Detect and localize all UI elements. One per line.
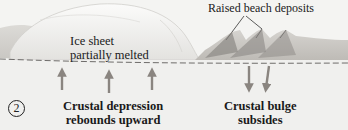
crustal-bulge-line2: subsides <box>224 113 297 127</box>
beach-leader-lines <box>232 16 262 32</box>
crustal-bulge-label: Crustal bulge subsides <box>224 99 297 127</box>
raised-beach-label: Raised beach deposits <box>208 2 314 15</box>
crustal-depression-line2: rebounds upward <box>63 113 163 127</box>
rebound-diagram: Ice sheet partially melted Raised beach … <box>0 0 348 130</box>
crustal-bulge-line1: Crustal bulge <box>224 99 297 113</box>
ice-sheet-label-line1: Ice sheet <box>70 34 149 48</box>
step-number-badge: 2 <box>8 100 25 117</box>
ice-sheet-label: Ice sheet partially melted <box>70 34 149 62</box>
crustal-depression-label: Crustal depression rebounds upward <box>63 99 163 127</box>
crustal-depression-line1: Crustal depression <box>63 99 163 113</box>
ice-sheet-label-line2: partially melted <box>70 48 149 62</box>
